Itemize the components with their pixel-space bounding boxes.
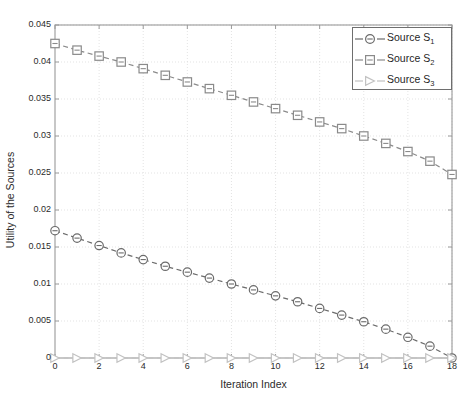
- legend-label: Source S1: [387, 31, 434, 46]
- legend-label-text: Source S: [387, 73, 430, 85]
- x-tick-label: 10: [264, 361, 288, 371]
- legend-label-subscript: 2: [430, 58, 434, 67]
- x-tick-label: 2: [87, 361, 111, 371]
- legend-label-text: Source S: [387, 31, 430, 43]
- legend-label-subscript: 1: [430, 37, 434, 46]
- y-tick-label: 0.005: [28, 315, 51, 325]
- y-tick-label: 0.03: [33, 130, 51, 140]
- y-axis-label-wrap: Utility of the Sources: [2, 0, 18, 399]
- x-tick-label: 4: [131, 361, 155, 371]
- square-marker-icon: [353, 51, 387, 69]
- chart-legend: Source S1Source S2Source S3: [352, 27, 452, 90]
- x-tick-label: 14: [352, 361, 376, 371]
- x-axis-label-wrap: Iteration Index: [55, 374, 452, 392]
- circle-marker-icon: [353, 30, 387, 48]
- legend-item-1: Source S1: [353, 28, 451, 49]
- y-axis-label: Utility of the Sources: [4, 151, 16, 247]
- y-tick-label: 0.035: [28, 93, 51, 103]
- x-axis-label: Iteration Index: [220, 378, 287, 390]
- y-tick-label: 0.02: [33, 204, 51, 214]
- legend-label: Source S3: [387, 73, 434, 88]
- legend-item-3: Source S3: [353, 70, 451, 91]
- legend-label-text: Source S: [387, 52, 430, 64]
- x-tick-label: 18: [440, 361, 464, 371]
- x-tick-label: 16: [396, 361, 420, 371]
- y-tick-label: 0.04: [33, 56, 51, 66]
- x-tick-label: 8: [219, 361, 243, 371]
- y-tick-label: 0.025: [28, 167, 51, 177]
- legend-label-subscript: 3: [430, 79, 434, 88]
- x-tick-label: 6: [175, 361, 199, 371]
- figure-canvas: Utility of the Sources Iteration Index S…: [0, 0, 475, 399]
- y-tick-label: 0.01: [33, 278, 51, 288]
- x-tick-label: 12: [308, 361, 332, 371]
- legend-item-2: Source S2: [353, 49, 451, 70]
- legend-label: Source S2: [387, 52, 434, 67]
- x-tick-label: 0: [43, 361, 67, 371]
- y-tick-label: 0.045: [28, 19, 51, 29]
- triangle-right-marker-icon: [353, 72, 387, 90]
- y-tick-label: 0.015: [28, 241, 51, 251]
